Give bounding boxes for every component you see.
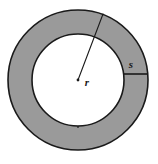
annulus-svg-canvas: r s (0, 0, 158, 164)
center-point-dot (77, 79, 80, 82)
annulus-figure: r s (0, 0, 158, 164)
ring-width-label: s (128, 58, 133, 70)
radius-label: r (85, 76, 90, 88)
